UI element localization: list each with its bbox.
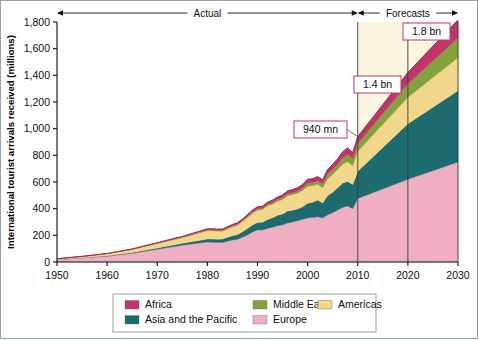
y-tick-label-1800: 1,800 xyxy=(24,16,50,28)
period-arrow-start-forecasts xyxy=(358,10,364,16)
x-tick-label-1950: 1950 xyxy=(45,269,69,281)
legend-swatch-asia-and-the-pacific xyxy=(125,316,139,325)
period-label-forecasts: Forecasts xyxy=(386,8,430,19)
callout-leader-940-mn xyxy=(347,130,358,137)
chart-figure: 02004006008001,0001,2001,4001,6001,80019… xyxy=(0,0,479,340)
callout-label-1-4-bn: 1.4 bn xyxy=(363,78,392,90)
x-tick-label-1960: 1960 xyxy=(95,269,119,281)
y-tick-label-0: 0 xyxy=(44,256,50,268)
y-tick-label-200: 200 xyxy=(32,229,50,241)
legend-swatch-americas xyxy=(318,301,332,310)
y-tick-label-1000: 1,000 xyxy=(24,122,50,134)
x-tick-label-2020: 2020 xyxy=(396,269,420,281)
x-tick-label-2030: 2030 xyxy=(446,269,470,281)
x-tick-label-2010: 2010 xyxy=(346,269,370,281)
y-tick-label-1200: 1,200 xyxy=(24,96,50,108)
y-tick-label-1400: 1,400 xyxy=(24,69,50,81)
legend-label-africa: Africa xyxy=(145,298,172,310)
legend-swatch-middle-east xyxy=(253,301,267,310)
legend-label-europe: Europe xyxy=(273,313,307,325)
y-tick-label-600: 600 xyxy=(32,176,50,188)
period-arrow-end-actual xyxy=(352,10,358,16)
callout-label-940-mn: 940 mn xyxy=(303,123,338,135)
period-arrow-end-forecasts xyxy=(452,10,458,16)
y-axis-title: International tourist arrivals received … xyxy=(5,35,16,249)
y-tick-label-400: 400 xyxy=(32,202,50,214)
callout-label-1-8-bn: 1.8 bn xyxy=(412,25,441,37)
x-tick-label-1990: 1990 xyxy=(246,269,270,281)
y-tick-label-1600: 1,600 xyxy=(24,42,50,54)
period-arrow-start-actual xyxy=(57,10,63,16)
legend-swatch-africa xyxy=(125,301,139,310)
period-label-actual: Actual xyxy=(193,8,221,19)
legend-swatch-europe xyxy=(253,316,267,325)
tourist-arrivals-stacked-area-chart: 02004006008001,0001,2001,4001,6001,80019… xyxy=(0,0,479,340)
legend-label-americas: Americas xyxy=(338,298,382,310)
legend-label-asia-and-the-pacific: Asia and the Pacific xyxy=(145,313,237,325)
x-tick-label-2000: 2000 xyxy=(296,269,320,281)
x-tick-label-1970: 1970 xyxy=(146,269,170,281)
y-tick-label-800: 800 xyxy=(32,149,50,161)
x-tick-label-1980: 1980 xyxy=(196,269,220,281)
